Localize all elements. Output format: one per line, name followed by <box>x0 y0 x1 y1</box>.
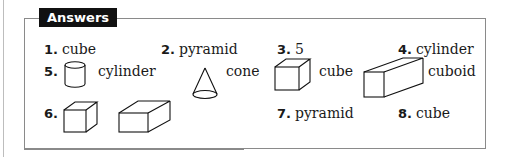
answer-text: cylinder <box>416 41 474 57</box>
answer-6-number: 6. <box>44 105 62 122</box>
cube-icon <box>63 101 101 135</box>
cuboid-icon <box>118 100 174 134</box>
answer-8: 8.cube <box>398 105 450 122</box>
answer-number: 7. <box>277 106 291 121</box>
answer-number: 3. <box>277 42 291 57</box>
shape-label-cube: cube <box>319 63 353 79</box>
shape-label-cone: cone <box>226 63 260 79</box>
shape-label-cylinder: cylinder <box>98 63 156 79</box>
answers-title: Answers <box>39 8 117 27</box>
answer-number: 1. <box>44 42 58 57</box>
answer-4: 4.cylinder <box>398 41 474 58</box>
answer-1: 1.cube <box>44 41 96 58</box>
answer-number: 6. <box>44 106 58 121</box>
answer-text: pyramid <box>179 41 238 57</box>
answer-2: 2.pyramid <box>161 41 238 58</box>
answer-text: cube <box>62 41 96 57</box>
answer-3: 3.5 <box>277 41 304 58</box>
left-margin-rule <box>3 0 4 157</box>
cube-icon <box>274 58 312 92</box>
cuboid-icon <box>363 57 425 99</box>
cylinder-icon <box>64 61 86 89</box>
answer-number: 5. <box>44 64 58 79</box>
answer-number: 2. <box>161 42 175 57</box>
shape-label-cuboid: cuboid <box>428 63 476 79</box>
frame-mask <box>241 19 244 148</box>
cone-icon <box>192 67 218 101</box>
answer-number: 8. <box>398 106 412 121</box>
answer-text: pyramid <box>295 105 354 121</box>
answer-5-number: 5. <box>44 63 62 80</box>
answer-7: 7.pyramid <box>277 105 354 122</box>
answer-text: cube <box>416 105 450 121</box>
answer-text: 5 <box>295 41 304 57</box>
answer-number: 4. <box>398 42 412 57</box>
